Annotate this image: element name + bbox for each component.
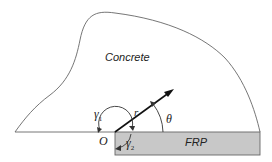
theta-label: θ bbox=[166, 112, 172, 127]
radius-arrow bbox=[115, 92, 170, 132]
gamma1-label: γ1 bbox=[94, 107, 102, 123]
concrete-label: Concrete bbox=[105, 51, 150, 63]
frp-label: FRP bbox=[185, 136, 207, 148]
gamma1-arc bbox=[99, 106, 133, 130]
radius-label: r bbox=[134, 106, 138, 118]
gamma2-label: γ2 bbox=[126, 136, 134, 152]
origin-label: O bbox=[99, 134, 108, 149]
gamma2-subscript: 2 bbox=[131, 144, 135, 152]
diagram-canvas bbox=[0, 0, 272, 162]
theta-arc bbox=[153, 104, 163, 132]
gamma1-arrowhead-end-icon bbox=[129, 126, 135, 131]
gamma1-subscript: 1 bbox=[99, 115, 103, 123]
